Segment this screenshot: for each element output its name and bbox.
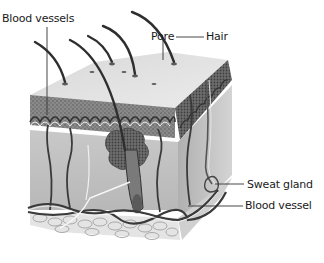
- label-sweat-gland: Sweat gland: [247, 179, 313, 191]
- label-pore: Pore: [151, 31, 174, 43]
- label-blood-vessels: Blood vessels: [2, 13, 74, 25]
- label-blood-vessel: Blood vessel: [245, 200, 312, 212]
- dermis-front: [30, 130, 178, 210]
- label-hair: Hair: [206, 31, 228, 43]
